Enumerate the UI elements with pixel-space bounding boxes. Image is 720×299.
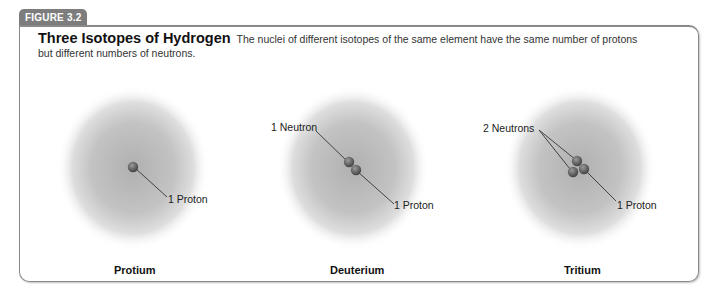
isotope-name-deuterium: Deuterium (330, 264, 384, 276)
proton-deuterium (351, 165, 361, 175)
neutron-tritium-1 (572, 156, 582, 166)
proton-label-protium: 1 Proton (168, 193, 208, 205)
proton-label-deuterium: 1 Proton (394, 199, 434, 211)
isotope-diagram (0, 0, 720, 299)
proton-protium (128, 162, 138, 172)
neutron-label-tritium: 2 Neutrons (483, 122, 534, 134)
proton-label-tritium: 1 Proton (617, 199, 657, 211)
isotope-name-tritium: Tritium (564, 264, 601, 276)
neutron-label-deuterium: 1 Neutron (271, 121, 317, 133)
isotope-name-protium: Protium (114, 264, 156, 276)
neutron-deuterium (344, 157, 354, 167)
neutron-tritium-2 (568, 167, 578, 177)
proton-tritium (579, 164, 589, 174)
